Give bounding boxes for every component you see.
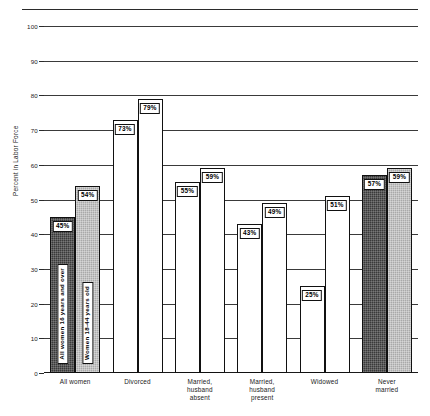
y-tick-label-30: 30 — [31, 265, 38, 272]
y-tick-label-100: 100 — [27, 23, 38, 30]
x-axis-category-label: All women — [60, 378, 91, 386]
bar-value-label: 43% — [239, 228, 259, 239]
bar: 59% — [387, 168, 412, 373]
bar: 59% — [200, 168, 225, 373]
bar-value-label: 57% — [364, 179, 384, 190]
bar-value-label: 73% — [115, 124, 135, 135]
y-tick-label-40: 40 — [31, 231, 38, 238]
bar: 79% — [138, 99, 163, 373]
y-tick-label-90: 90 — [31, 57, 38, 64]
bar: 25% — [300, 286, 325, 373]
gridline-70 — [44, 130, 418, 131]
bar-value-label: 45% — [52, 221, 72, 232]
gridline-100 — [44, 26, 418, 27]
y-tick-label-80: 80 — [31, 92, 38, 99]
gridline-90 — [44, 61, 418, 62]
bar-value-label: 25% — [302, 290, 322, 301]
y-tick-label-50: 50 — [31, 196, 38, 203]
y-tick-label-10: 10 — [31, 335, 38, 342]
bar: 73% — [113, 120, 138, 373]
y-tick-mark-100 — [39, 26, 44, 27]
bar: 54%Women 18-44 years old — [75, 186, 100, 373]
y-tick-mark-60 — [39, 165, 44, 166]
x-axis-category-label: Married, husband absent — [187, 378, 213, 403]
bar: 45%All women 16 years and over — [50, 217, 75, 373]
y-tick-label-60: 60 — [31, 161, 38, 168]
y-tick-label-0: 0 — [34, 370, 38, 377]
x-axis-category-label: Divorced — [124, 378, 150, 386]
y-tick-label-70: 70 — [31, 127, 38, 134]
y-tick-mark-90 — [39, 61, 44, 62]
plot-area: 010203040506070809010045%All women 16 ye… — [44, 26, 418, 373]
bar-value-label: 59% — [202, 172, 222, 183]
y-tick-mark-20 — [39, 304, 44, 305]
top-rule — [22, 9, 418, 10]
bar-value-label: 55% — [177, 186, 197, 197]
bar: 57% — [362, 175, 387, 373]
bar: 51% — [325, 196, 350, 373]
y-tick-mark-30 — [39, 269, 44, 270]
y-axis-title: Percent in Labor Force — [12, 125, 19, 196]
y-tick-mark-0 — [39, 373, 44, 374]
y-tick-mark-70 — [39, 130, 44, 131]
bar-value-label: 49% — [264, 207, 284, 218]
legend-entry-label: Women 18-44 years old — [85, 286, 91, 360]
gridline-60 — [44, 165, 418, 166]
x-axis-category-label: Never married — [375, 378, 398, 394]
bar-value-label: 54% — [77, 190, 97, 201]
legend-entry-label: All women 16 years and over — [60, 268, 66, 360]
bar: 49% — [262, 203, 287, 373]
y-tick-mark-40 — [39, 234, 44, 235]
legend-entry: All women 16 years and over — [57, 264, 68, 364]
bar-value-label: 59% — [389, 172, 409, 183]
y-tick-mark-80 — [39, 95, 44, 96]
bar-value-label: 79% — [140, 103, 160, 114]
y-tick-label-20: 20 — [31, 300, 38, 307]
x-axis-category-label: Widowed — [311, 378, 338, 386]
y-tick-mark-50 — [39, 200, 44, 201]
legend-entry: Women 18-44 years old — [82, 282, 93, 364]
y-tick-mark-10 — [39, 338, 44, 339]
bar-value-label: 51% — [327, 200, 347, 211]
gridline-80 — [44, 95, 418, 96]
bar: 43% — [237, 224, 262, 373]
x-axis-category-label: Married, husband present — [249, 378, 275, 403]
bar: 55% — [175, 182, 200, 373]
labor-force-bar-chart: Percent in Labor Force 01020304050607080… — [0, 0, 430, 416]
